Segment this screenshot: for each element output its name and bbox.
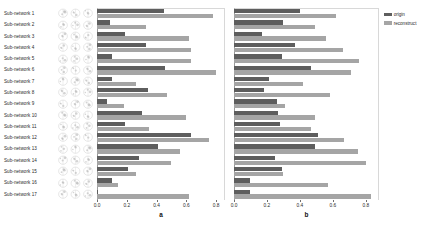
legend-item-origin: origin	[384, 11, 436, 18]
bar-a-origin-8	[97, 88, 148, 92]
bar-b-origin-1	[234, 9, 300, 13]
bar-b-origin-12	[234, 133, 318, 137]
bar-group-b-6	[234, 64, 379, 75]
row-label-3: Sub-network 3	[4, 31, 56, 42]
bar-b-origin-6	[234, 66, 311, 70]
bar-b-reconstruct-12	[234, 138, 344, 142]
bar-group-b-7	[234, 76, 379, 87]
bar-b-origin-7	[234, 77, 269, 81]
bar-b-reconstruct-9	[234, 104, 285, 108]
bar-a-origin-3	[97, 32, 125, 36]
bar-group-b-3	[234, 31, 379, 42]
bar-a-origin-5	[97, 54, 112, 58]
bar-group-a-7	[97, 76, 225, 87]
xtick-label-b-2: 0.4	[297, 203, 304, 208]
brain-slice-thumbnail-10	[57, 110, 94, 121]
row-label-8: Sub-network 8	[4, 87, 56, 98]
bar-group-a-16	[97, 177, 225, 188]
row-label-4: Sub-network 4	[4, 42, 56, 53]
bar-group-a-14	[97, 155, 225, 166]
bar-a-reconstruct-16	[97, 183, 118, 187]
bar-a-origin-4	[97, 43, 146, 47]
bar-a-reconstruct-8	[97, 93, 167, 97]
bar-a-reconstruct-17	[97, 194, 189, 198]
bar-b-reconstruct-1	[234, 14, 336, 18]
bar-a-reconstruct-6	[97, 70, 216, 74]
xtick-label-a-2: 0.4	[153, 203, 160, 208]
bar-group-b-10	[234, 110, 379, 121]
bar-b-origin-2	[234, 20, 283, 24]
brain-slice-thumbnail-15	[57, 166, 94, 177]
panel-b-plot-area	[234, 8, 379, 200]
bar-b-reconstruct-8	[234, 93, 330, 97]
bar-b-origin-14	[234, 156, 275, 160]
row-label-12: Sub-network 12	[4, 132, 56, 143]
bar-a-origin-6	[97, 66, 165, 70]
bar-b-origin-4	[234, 43, 295, 47]
brain-slice-thumbnail-13	[57, 143, 94, 154]
panel-a-plot-area	[97, 8, 225, 200]
bar-a-reconstruct-15	[97, 172, 136, 176]
row-label-15: Sub-network 15	[4, 166, 56, 177]
bar-group-a-8	[97, 87, 225, 98]
bar-group-a-5	[97, 53, 225, 64]
row-label-17: Sub-network 17	[4, 189, 56, 200]
legend-label-reconstruct: reconstruct	[394, 21, 417, 26]
brain-slice-thumbnail-17	[57, 189, 94, 200]
brain-slice-thumbnail-3	[57, 31, 94, 42]
brain-slice-thumbnail-1	[57, 8, 94, 19]
xtick-label-b-0: 0.0	[231, 203, 238, 208]
brain-slice-thumbnail-8	[57, 87, 94, 98]
bar-group-b-4	[234, 42, 379, 53]
bar-a-origin-17	[97, 190, 98, 194]
figure-canvas: Sub-network 1Sub-network 2Sub-network 3S…	[0, 0, 437, 237]
row-label-14: Sub-network 14	[4, 155, 56, 166]
bar-b-origin-15	[234, 167, 282, 171]
bar-a-reconstruct-9	[97, 104, 124, 108]
bar-a-reconstruct-14	[97, 161, 171, 165]
row-label-2: Sub-network 2	[4, 19, 56, 30]
bar-group-b-17	[234, 189, 379, 200]
bar-b-origin-5	[234, 54, 282, 58]
panel-b-label: b	[234, 211, 379, 218]
bar-b-origin-8	[234, 88, 264, 92]
bar-b-reconstruct-13	[234, 149, 358, 153]
row-label-column: Sub-network 1Sub-network 2Sub-network 3S…	[4, 8, 56, 200]
bar-a-origin-11	[97, 122, 125, 126]
bar-group-a-2	[97, 19, 225, 30]
bar-a-reconstruct-3	[97, 36, 189, 40]
bar-b-reconstruct-11	[234, 127, 311, 131]
bar-group-a-1	[97, 8, 225, 19]
bar-b-reconstruct-16	[234, 183, 328, 187]
bar-group-a-10	[97, 110, 225, 121]
xtick-label-b-3: 0.6	[330, 203, 337, 208]
legend-swatch-reconstruct	[384, 21, 392, 25]
bar-group-b-12	[234, 132, 379, 143]
row-label-1: Sub-network 1	[4, 8, 56, 19]
bar-b-reconstruct-6	[234, 70, 351, 74]
xtick-label-b-1: 0.2	[264, 203, 271, 208]
brain-slice-thumbnail-7	[57, 76, 94, 87]
bar-group-b-14	[234, 155, 379, 166]
brain-slice-thumbnail-12	[57, 132, 94, 143]
row-label-16: Sub-network 16	[4, 177, 56, 188]
brain-slice-thumbnail-5	[57, 53, 94, 64]
bar-a-reconstruct-4	[97, 48, 191, 52]
row-label-10: Sub-network 10	[4, 110, 56, 121]
bar-group-b-15	[234, 166, 379, 177]
bar-group-b-16	[234, 177, 379, 188]
bar-group-a-6	[97, 64, 225, 75]
brain-slice-thumbnail-4	[57, 42, 94, 53]
bar-a-reconstruct-12	[97, 138, 209, 142]
legend-item-reconstruct: reconstruct	[384, 20, 436, 27]
bar-a-origin-2	[97, 20, 110, 24]
brain-slice-thumbnail-11	[57, 121, 94, 132]
bar-group-b-1	[234, 8, 379, 19]
legend-swatch-origin	[384, 13, 392, 17]
bar-a-origin-7	[97, 77, 112, 81]
bar-b-origin-10	[234, 111, 278, 115]
bar-b-origin-11	[234, 122, 280, 126]
xtick-label-a-1: 0.2	[123, 203, 130, 208]
bar-group-a-3	[97, 31, 225, 42]
bar-group-a-9	[97, 98, 225, 109]
